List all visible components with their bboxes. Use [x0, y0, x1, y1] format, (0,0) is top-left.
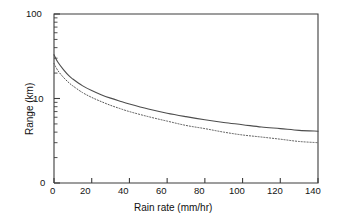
- x-tick-label-100: 100: [229, 186, 245, 196]
- x-tick-label-80: 80: [194, 186, 205, 196]
- y-tick-label-100: 100: [26, 9, 42, 19]
- x-tick-label-120: 120: [267, 186, 283, 196]
- x-axis-title: Rain rate (mm/hr): [134, 203, 212, 213]
- series-line-upper-curve: [54, 55, 318, 132]
- chart-figure: 100 10 0 0 20 40 60 80 100 120 140 Rain …: [0, 0, 339, 224]
- x-tick-label-0: 0: [50, 186, 55, 196]
- x-tick-label-60: 60: [156, 186, 167, 196]
- y-tick-label-0: 0: [40, 178, 45, 188]
- x-tick-label-20: 20: [80, 186, 91, 196]
- plot-frame: [54, 14, 318, 183]
- series-line-lower-curve: [54, 63, 318, 142]
- x-tick-label-140: 140: [305, 186, 321, 196]
- y-axis-title: Range (km): [25, 83, 35, 135]
- x-tick-label-40: 40: [118, 186, 129, 196]
